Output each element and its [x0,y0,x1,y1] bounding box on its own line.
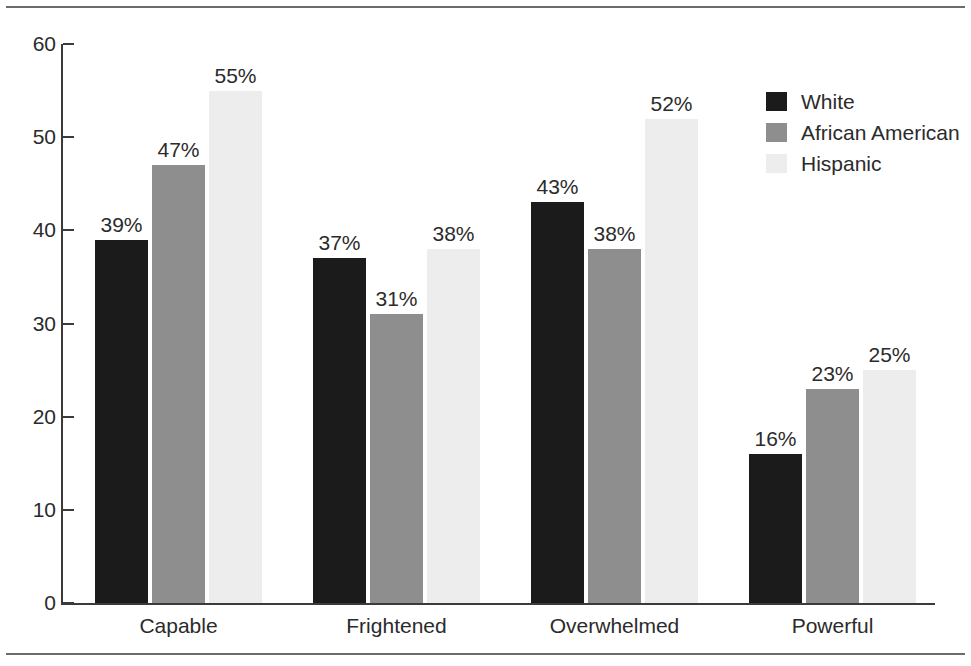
bar: 38% [427,249,480,603]
bar: 43% [531,202,584,603]
bar-value-label: 37% [318,232,360,253]
bar-value-label: 38% [432,223,474,244]
legend-item: White [766,86,960,117]
x-axis-category-label: Frightened [313,615,480,636]
legend-item-label: African American [801,122,960,143]
bar-value-label: 25% [868,344,910,365]
bar-value-label: 39% [100,214,142,235]
x-axis-category-label: Capable [95,615,262,636]
figure-top-rule [6,6,965,8]
legend-item-label: White [801,91,855,112]
y-axis-tick-label: 30 [10,313,56,334]
y-axis-tick-label: 60 [10,33,56,54]
legend-swatch-icon [766,92,787,111]
bar-value-label: 31% [375,288,417,309]
x-axis-line [61,603,935,605]
bar-value-label: 43% [536,176,578,197]
bar: 39% [95,240,148,603]
y-axis-tick-label: 20 [10,406,56,427]
y-axis-tick-label: 40 [10,219,56,240]
bar: 31% [370,314,423,603]
legend-item-label: Hispanic [801,153,882,174]
bar: 25% [863,370,916,603]
bar-value-label: 55% [214,65,256,86]
figure-bottom-rule [6,653,965,655]
bar-value-label: 47% [157,139,199,160]
chart-legend: WhiteAfrican AmericanHispanic [766,86,960,179]
x-axis-category-label: Overwhelmed [531,615,698,636]
y-axis-tick-label: 50 [10,126,56,147]
legend-swatch-icon [766,154,787,173]
bar: 55% [209,91,262,603]
y-axis-tick-label: 10 [10,499,56,520]
bar-value-label: 38% [593,223,635,244]
x-axis-category-label: Powerful [749,615,916,636]
legend-swatch-icon [766,123,787,142]
bar: 47% [152,165,205,603]
bar-chart-figure: 0102030405060 39%47%55%37%31%38%43%38%52… [0,0,971,666]
bar-value-label: 23% [811,363,853,384]
bar: 23% [806,389,859,603]
bar: 37% [313,258,366,603]
bar-group: 43%38%52% [499,44,717,603]
legend-item: Hispanic [766,148,960,179]
y-axis-tick-label: 0 [10,592,56,613]
bar: 38% [588,249,641,603]
bar-group: 37%31%38% [281,44,499,603]
legend-item: African American [766,117,960,148]
bar: 52% [645,119,698,603]
bar: 16% [749,454,802,603]
bar-value-label: 52% [650,93,692,114]
bar-group: 39%47%55% [63,44,281,603]
bar-value-label: 16% [754,428,796,449]
